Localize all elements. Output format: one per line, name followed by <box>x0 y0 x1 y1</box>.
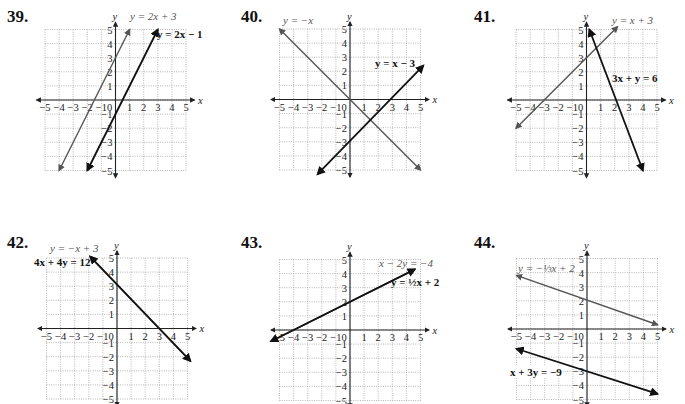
x-tick-label: 4 <box>404 102 410 113</box>
y-tick-label: −2 <box>336 353 347 364</box>
line-label-y-neg-third-x-plus-2: y = −⅓x + 2 <box>518 262 575 274</box>
x-tick-label: 5 <box>185 331 190 342</box>
y-tick-label: 3 <box>107 53 112 64</box>
x-tick-label: −2 <box>316 102 327 113</box>
x-tick-label: −2 <box>553 331 564 342</box>
line-label-y-neg-x: y = −x <box>283 14 313 26</box>
x-tick-label: −3 <box>302 332 313 343</box>
x-tick-label: −5 <box>41 331 52 342</box>
y-tick-label: −3 <box>103 366 114 377</box>
y-tick-label: 1 <box>342 80 347 91</box>
y-tick-label: −1 <box>572 109 583 120</box>
y-tick-label: 5 <box>109 253 114 264</box>
x-tick-label: 1 <box>361 332 366 343</box>
y-axis-label: y <box>583 11 589 22</box>
x-tick-label: −4 <box>54 102 66 113</box>
x-tick-label: 2 <box>376 332 381 343</box>
x-axis-label: x <box>431 94 437 105</box>
y-tick-label: −1 <box>336 109 347 120</box>
y-tick-label: −3 <box>336 367 347 378</box>
y-tick-label: 3 <box>342 283 347 294</box>
y-tick-label: 1 <box>579 310 584 321</box>
x-tick-label: −2 <box>316 332 327 343</box>
x-tick-label: 2 <box>613 331 618 342</box>
x-tick-label: 3 <box>155 102 160 113</box>
y-tick-label: −4 <box>572 151 584 162</box>
y-tick-label: 2 <box>342 66 347 77</box>
graph-41: xy−5−4−3−2−101234554321−1−2−3−4−5 <box>508 11 674 177</box>
line-label-x-plus-3y-neg-9: x + 3y = −9 <box>510 366 562 378</box>
x-tick-label: −5 <box>511 331 522 342</box>
y-tick-label: 1 <box>109 309 114 320</box>
x-tick-label: 4 <box>169 102 175 113</box>
y-tick-label: −1 <box>573 338 584 349</box>
x-tick-label: 2 <box>141 102 146 113</box>
x-tick-label: −4 <box>55 331 67 342</box>
x-tick-label: 3 <box>627 331 632 342</box>
y-tick-label: 1 <box>578 81 583 92</box>
y-tick-label: −5 <box>101 166 112 177</box>
y-tick-label: −2 <box>573 352 584 363</box>
y-tick-label: 2 <box>109 295 114 306</box>
y-tick-label: −5 <box>336 396 347 404</box>
y-tick-label: −3 <box>572 137 583 148</box>
x-tick-label: −3 <box>539 331 550 342</box>
y-axis-label: y <box>583 240 589 251</box>
x-tick-label: −5 <box>510 102 521 113</box>
x-tick-label: −4 <box>288 332 300 343</box>
y-tick-label: 3 <box>342 52 347 63</box>
line-label-y-2x-plus-3: y = 2x + 3 <box>130 10 177 22</box>
line-label-y-x-minus-3: y = x − 3 <box>375 57 415 69</box>
y-tick-label: 5 <box>578 25 583 36</box>
y-tick-label: 5 <box>107 25 112 36</box>
y-tick-label: 4 <box>342 38 348 49</box>
x-tick-label: 1 <box>127 102 132 113</box>
y-tick-label: −4 <box>103 380 115 391</box>
x-tick-label: −2 <box>553 102 564 113</box>
y-tick-label: −4 <box>336 381 348 392</box>
x-tick-label: 1 <box>598 331 603 342</box>
y-tick-label: 3 <box>109 281 114 292</box>
line-label-y-x-plus-3: y = x + 3 <box>612 14 653 26</box>
y-axis-label: y <box>112 11 118 22</box>
x-tick-label: 5 <box>654 102 659 113</box>
x-axis-label: x <box>431 325 437 336</box>
x-tick-label: −3 <box>302 102 313 113</box>
x-tick-label: 3 <box>390 332 395 343</box>
x-tick-label: −4 <box>525 102 537 113</box>
y-tick-label: 1 <box>342 311 347 322</box>
y-tick-label: −1 <box>336 339 347 350</box>
y-axis-label: y <box>346 11 352 22</box>
x-tick-label: −2 <box>83 331 94 342</box>
y-tick-label: −4 <box>573 380 585 391</box>
y-tick-label: 1 <box>107 81 112 92</box>
y-tick-label: 4 <box>579 268 585 279</box>
y-tick-label: −2 <box>336 123 347 134</box>
x-tick-label: 4 <box>171 331 177 342</box>
y-tick-label: −1 <box>103 338 114 349</box>
x-tick-label: 5 <box>418 332 423 343</box>
graph-40: xy−5−4−3−2−101234554321−1−2−3−4−5 <box>271 11 437 177</box>
x-tick-label: −5 <box>39 102 50 113</box>
y-tick-label: −5 <box>573 395 584 404</box>
x-tick-label: 4 <box>641 331 647 342</box>
x-tick-label: −4 <box>525 331 537 342</box>
x-axis-label: x <box>198 323 204 334</box>
x-tick-label: −3 <box>68 102 79 113</box>
x-tick-label: 5 <box>655 331 660 342</box>
x-tick-label: 4 <box>404 332 410 343</box>
x-tick-label: −5 <box>274 102 285 113</box>
y-tick-label: 5 <box>342 255 347 266</box>
y-tick-label: 3 <box>579 282 584 293</box>
x-tick-label: 5 <box>418 102 423 113</box>
x-tick-label: 3 <box>626 102 631 113</box>
x-axis-label: x <box>668 95 674 106</box>
y-tick-label: −5 <box>103 394 114 404</box>
line-label-x-minus-2y-neg-4: x − 2y = −4 <box>379 257 433 269</box>
y-tick-label: −4 <box>101 151 113 162</box>
x-tick-label: 1 <box>128 331 133 342</box>
y-tick-label: 4 <box>342 269 348 280</box>
x-tick-label: 5 <box>183 102 188 113</box>
x-tick-label: −4 <box>288 102 300 113</box>
y-tick-label: −2 <box>103 352 114 363</box>
